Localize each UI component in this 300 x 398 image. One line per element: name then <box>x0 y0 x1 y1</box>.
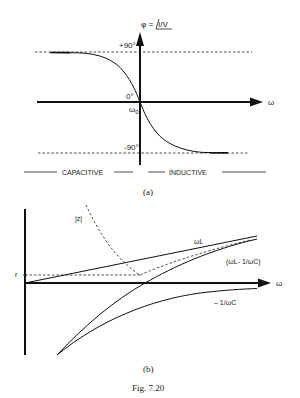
panel-a: φ = I/V +90° 0° ω0 -90° ω CAPACITIVE IND… <box>24 19 274 197</box>
x-axis-label-omega: ω <box>268 98 274 107</box>
angle-i-over-v-label: I/V <box>158 20 168 29</box>
tick-zero: 0° <box>126 92 134 101</box>
panel-b-sublabel: (b) <box>143 364 154 374</box>
b-x-axis-label-omega: ω <box>276 279 282 288</box>
phi-equals-label: φ = <box>141 20 153 29</box>
y-axis-arrow-icon <box>136 32 144 46</box>
origin-omega-label: ω0 <box>129 105 139 115</box>
tick-plus-90: +90° <box>119 41 136 50</box>
figure-canvas: φ = I/V +90° 0° ω0 -90° ω CAPACITIVE IND… <box>0 0 300 398</box>
panel-a-sublabel: (a) <box>143 187 153 197</box>
label-omega-l-minus-inv-omega-c: (ωL- 1/ωC) <box>226 258 261 266</box>
r-label: r <box>15 271 18 278</box>
omega-l-line <box>25 236 257 283</box>
b-x-axis-arrow-icon <box>258 279 271 288</box>
label-neg-inv-omega-c: – 1/ωC <box>214 299 236 306</box>
region-capacitive-label: CAPACITIVE <box>62 169 103 176</box>
y-axis-label: φ = I/V <box>141 19 172 29</box>
label-z-magnitude: |z| <box>75 215 82 223</box>
label-omega-l: ωL <box>194 238 203 245</box>
figure-caption: Fig. 7.20 <box>132 383 165 393</box>
x-axis-arrow-icon <box>250 98 263 107</box>
region-inductive-label: INDUCTIVE <box>169 169 207 176</box>
panel-b: ω r |z| ωL (ωL- 1/ωC) – 1/ωC (b) <box>15 205 282 374</box>
tick-minus-90: -90° <box>124 143 139 152</box>
